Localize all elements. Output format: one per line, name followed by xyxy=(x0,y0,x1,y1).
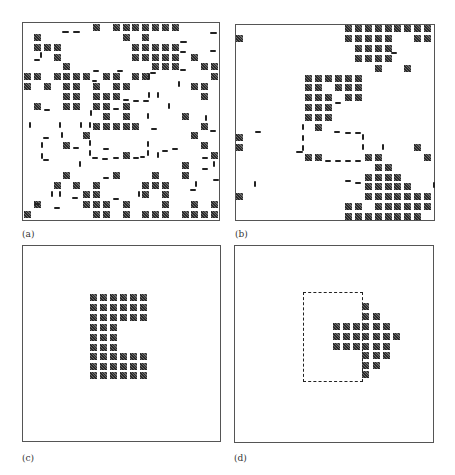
shape-cell xyxy=(120,353,127,360)
boundary-dash xyxy=(62,31,69,33)
grid-cell xyxy=(385,193,392,200)
boundary-dash xyxy=(148,73,150,80)
grid-cell xyxy=(93,103,100,110)
shape-cell xyxy=(373,333,380,340)
shape-cell xyxy=(362,303,369,310)
grid-cell xyxy=(365,154,372,161)
grid-cell xyxy=(201,211,208,218)
grid-cell xyxy=(162,201,169,208)
shape-cell xyxy=(353,343,360,350)
boundary-dash xyxy=(93,70,99,72)
grid-cell xyxy=(142,54,149,61)
grid-cell xyxy=(113,93,120,100)
grid-cell xyxy=(335,75,342,82)
boundary-dash xyxy=(59,191,61,197)
grid-cell xyxy=(152,182,159,189)
boundary-dash xyxy=(113,108,119,110)
grid-cell xyxy=(201,83,208,90)
boundary-dash xyxy=(72,197,78,199)
grid-cell xyxy=(132,123,139,130)
grid-cell xyxy=(305,84,312,91)
boundary-dash xyxy=(180,41,187,43)
boundary-dash xyxy=(180,69,186,71)
grid-cell xyxy=(325,114,332,121)
grid-cell xyxy=(172,44,179,51)
boundary-dash xyxy=(162,150,168,152)
shape-cell xyxy=(110,353,117,360)
shape-cell xyxy=(130,304,137,311)
grid-cell xyxy=(24,73,31,80)
grid-cell xyxy=(315,84,322,91)
grid-cell xyxy=(335,84,342,91)
shape-cell xyxy=(120,314,127,321)
grid-cell xyxy=(325,75,332,82)
shape-cell xyxy=(100,334,107,341)
boundary-dash xyxy=(90,110,92,116)
shape-cell xyxy=(343,343,350,350)
grid-cell xyxy=(414,213,421,220)
grid-cell xyxy=(236,35,243,42)
grid-cell xyxy=(355,94,362,101)
panel-label-c: (c) xyxy=(22,453,34,463)
grid-cell xyxy=(365,35,372,42)
shape-cell xyxy=(110,314,117,321)
shape-cell xyxy=(140,304,147,311)
grid-cell xyxy=(414,193,421,200)
grid-cell xyxy=(113,73,120,80)
shape-cell xyxy=(362,323,369,330)
grid-cell xyxy=(355,213,362,220)
shape-cell xyxy=(120,294,127,301)
grid-cell xyxy=(113,83,120,90)
boundary-dash xyxy=(147,141,149,147)
grid-cell xyxy=(375,154,382,161)
boundary-dash xyxy=(355,182,361,184)
shape-cell xyxy=(383,352,390,359)
shape-cell xyxy=(110,344,117,351)
grid-cell xyxy=(93,123,100,130)
grid-cell xyxy=(236,134,243,141)
shape-cell xyxy=(120,372,127,379)
boundary-dash xyxy=(34,59,40,61)
grid-cell xyxy=(385,183,392,190)
shape-cell xyxy=(130,363,137,370)
panel-frame-c xyxy=(22,245,221,442)
boundary-dash xyxy=(302,135,304,141)
shape-cell xyxy=(362,352,369,359)
shape-cell xyxy=(353,323,360,330)
boundary-dash xyxy=(151,128,157,130)
grid-cell xyxy=(394,203,401,210)
shape-cell xyxy=(90,314,97,321)
boundary-dash xyxy=(138,191,140,197)
shape-cell xyxy=(90,353,97,360)
boundary-dash xyxy=(133,157,139,159)
grid-cell xyxy=(93,211,100,218)
shape-cell xyxy=(100,353,107,360)
grid-cell xyxy=(93,182,100,189)
shape-cell xyxy=(100,363,107,370)
grid-cell xyxy=(34,44,41,51)
grid-cell xyxy=(54,73,61,80)
boundary-dash xyxy=(40,52,42,58)
grid-cell xyxy=(404,65,411,72)
grid-cell xyxy=(385,164,392,171)
grid-cell xyxy=(404,183,411,190)
grid-cell xyxy=(63,63,70,70)
boundary-dash xyxy=(43,137,49,139)
shape-cell xyxy=(130,353,137,360)
boundary-dash xyxy=(202,168,208,170)
grid-cell xyxy=(103,73,110,80)
grid-cell xyxy=(375,164,382,171)
grid-cell xyxy=(305,94,312,101)
grid-cell xyxy=(365,193,372,200)
shape-cell xyxy=(362,362,369,369)
boundary-dash xyxy=(44,109,50,111)
boundary-dash xyxy=(29,122,31,128)
panel-frame-b xyxy=(235,24,435,221)
grid-cell xyxy=(211,152,218,159)
grid-cell xyxy=(375,65,382,72)
grid-cell xyxy=(201,123,208,130)
boundary-dash xyxy=(178,81,180,87)
grid-cell xyxy=(142,182,149,189)
shape-cell xyxy=(90,372,97,379)
grid-cell xyxy=(73,73,80,80)
